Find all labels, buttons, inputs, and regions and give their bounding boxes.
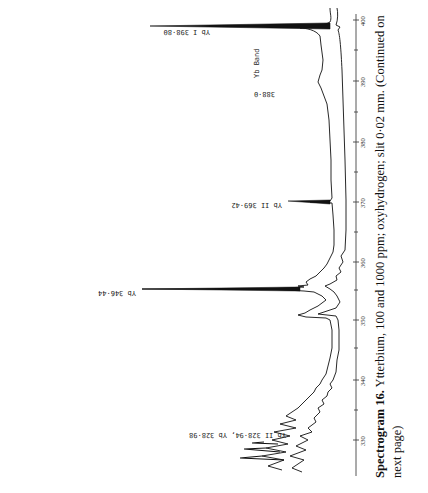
peak-328-94 [240, 442, 284, 460]
peak-369-42 [288, 200, 330, 204]
label-yb-band: Yb Band [253, 48, 261, 78]
trace-1000ppm [262, 8, 334, 470]
label-yb-band-388: 388·0 [254, 90, 275, 98]
tick-350: 350 [359, 316, 366, 326]
tick-380: 380 [359, 138, 366, 148]
spectrogram-plot: 400 390 380 370 360 350 340 330 Yb I 398… [0, 0, 428, 493]
tick-370: 370 [359, 198, 366, 208]
spectrogram-figure: 400 390 380 370 360 350 340 330 Yb I 398… [0, 0, 428, 493]
tick-340: 340 [359, 376, 366, 386]
label-yb-346-44: Yb 346·44 [98, 289, 136, 297]
tick-360: 360 [359, 258, 366, 268]
figure-caption: Spectrogram 16. Ytterbium, 100 and 1000 … [372, 8, 406, 478]
caption-label: Spectrogram 16. [373, 390, 387, 478]
wavelength-axis: 400 390 380 370 360 350 340 330 [353, 14, 366, 476]
label-yb1-398-80: Yb I 398·80 [164, 28, 210, 36]
tick-390: 390 [359, 77, 366, 87]
tick-400: 400 [359, 16, 366, 26]
label-yb2-369-42-placed: Yb II 369·42 [231, 201, 282, 209]
tick-330: 330 [359, 436, 366, 446]
trace-100ppm [290, 8, 346, 472]
label-yb2-328-94: Yb II 328·94, Yb 328·98 [189, 431, 286, 439]
